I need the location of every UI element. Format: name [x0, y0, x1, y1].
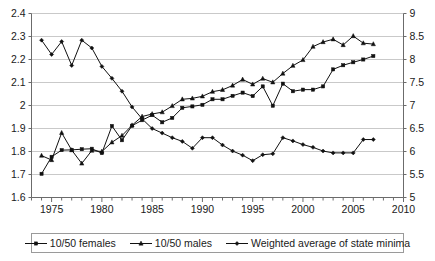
legend-point — [34, 241, 37, 244]
data-point-triangle — [39, 153, 43, 157]
chart-legend: 10/50 females10/50 malesWeighted average… — [31, 233, 404, 253]
legend-marker-diamond-icon — [226, 238, 248, 249]
y-axis-left-tick-label: 1.6 — [11, 191, 26, 203]
data-point-triangle — [351, 34, 355, 38]
y-axis-right-tick-label: 5 — [410, 191, 416, 203]
y-axis-right-tick-label: 6 — [410, 145, 416, 157]
data-point-square — [301, 88, 304, 91]
gridlines — [32, 14, 404, 175]
data-point-square — [241, 91, 244, 94]
data-point-square — [261, 85, 264, 88]
y-axis-right-tick-label: 5.5 — [410, 168, 425, 180]
x-axis-tick-label: 1990 — [191, 203, 215, 215]
data-point-triangle — [281, 71, 285, 75]
chart-plot-area: 1.61.71.81.922.12.22.32.455.566.577.588.… — [0, 0, 435, 261]
data-point-square — [211, 98, 214, 101]
y-axis-left-tick-label: 2.1 — [11, 76, 26, 88]
legend-marker-square-icon — [25, 238, 47, 249]
x-axis-tick-label: 2000 — [291, 203, 315, 215]
data-point-square — [120, 139, 123, 142]
y-axis-left-tick-label: 1.9 — [11, 122, 26, 134]
legend-label: 10/50 males — [155, 237, 212, 249]
y-axis-right-tick-label: 7.5 — [410, 76, 425, 88]
data-point-diamond — [301, 143, 305, 147]
data-point-triangle — [60, 130, 64, 134]
data-point-square — [181, 106, 184, 109]
tick-labels: 1.61.71.81.922.12.22.32.455.566.577.588.… — [11, 7, 424, 214]
data-point-diamond — [311, 145, 315, 149]
y-axis-right-tick-label: 9 — [410, 7, 416, 19]
data-point-triangle — [241, 77, 245, 81]
series-line-diamond — [42, 40, 374, 161]
data-series — [39, 34, 375, 176]
data-point-triangle — [361, 41, 365, 45]
data-point-diamond — [371, 138, 375, 142]
data-point-square — [362, 58, 365, 61]
legend-entry-3: Weighted average of state minima — [226, 237, 410, 249]
data-point-square — [201, 103, 204, 106]
data-point-square — [161, 121, 164, 124]
series-3 — [40, 38, 376, 163]
data-point-square — [110, 124, 113, 127]
y-axis-left-tick-label: 2.4 — [11, 7, 26, 19]
legend-label: Weighted average of state minima — [251, 237, 410, 249]
y-axis-left-tick-label: 1.7 — [11, 168, 26, 180]
data-point-triangle — [331, 37, 335, 41]
data-point-square — [372, 54, 375, 57]
x-axis-tick-label: 2005 — [342, 203, 366, 215]
data-point-diamond — [321, 149, 325, 153]
data-point-square — [60, 149, 63, 152]
y-axis-left-tick-label: 2.2 — [11, 53, 26, 65]
data-point-diamond — [160, 131, 164, 135]
data-point-square — [352, 61, 355, 64]
legend-marker-triangle-icon — [130, 238, 152, 249]
data-point-square — [321, 85, 324, 88]
data-point-diamond — [170, 136, 174, 140]
legend-point — [235, 241, 239, 245]
data-point-square — [40, 172, 43, 175]
data-point-diamond — [291, 139, 295, 143]
series-line-square — [42, 56, 374, 174]
data-point-square — [281, 82, 284, 85]
data-point-triangle — [261, 76, 265, 80]
data-point-diamond — [70, 63, 74, 67]
data-point-square — [332, 68, 335, 71]
data-point-square — [311, 88, 314, 91]
data-point-square — [171, 116, 174, 119]
series-line-triangle — [42, 36, 374, 163]
data-point-square — [342, 64, 345, 67]
legend-entry-2: 10/50 males — [130, 237, 212, 249]
data-point-square — [291, 90, 294, 93]
data-point-square — [231, 94, 234, 97]
data-point-square — [191, 105, 194, 108]
y-axis-left-tick-label: 1.8 — [11, 145, 26, 157]
data-point-square — [221, 98, 224, 101]
data-point-square — [80, 148, 83, 151]
data-point-square — [271, 104, 274, 107]
y-axis-right-tick-label: 8 — [410, 53, 416, 65]
data-point-square — [251, 94, 254, 97]
y-axis-right-tick-label: 7 — [410, 99, 416, 111]
y-axis-right-tick-label: 8.5 — [410, 30, 425, 42]
y-axis-left-tick-label: 2.3 — [11, 30, 26, 42]
x-axis-tick-label: 1995 — [241, 203, 265, 215]
x-axis-tick-label: 2010 — [392, 203, 416, 215]
series-2 — [39, 34, 375, 165]
legend-label: 10/50 females — [50, 237, 116, 249]
y-axis-left-tick-label: 2 — [20, 99, 26, 111]
chart-container: 1.61.71.81.922.12.22.32.455.566.577.588.… — [0, 0, 435, 261]
x-axis-tick-label: 1985 — [140, 203, 164, 215]
x-axis-tick-label: 1975 — [40, 203, 64, 215]
data-point-diamond — [241, 153, 245, 157]
legend-entry-1: 10/50 females — [25, 237, 116, 249]
tick-marks — [29, 14, 407, 203]
y-axis-right-tick-label: 6.5 — [410, 122, 425, 134]
x-axis-tick-label: 1980 — [90, 203, 114, 215]
series-1 — [40, 54, 375, 175]
